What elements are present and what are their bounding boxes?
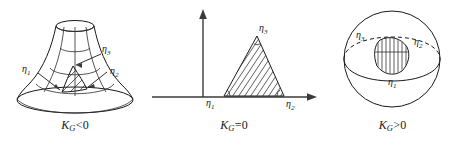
- label-eta2: η2: [414, 36, 423, 50]
- caption-positive-curvature: KG>0: [318, 118, 467, 133]
- label-eta2: η2: [286, 98, 295, 112]
- caption-zero-curvature: KG=0: [150, 118, 318, 133]
- figure-root: η1 η2 η3 KG<0: [0, 0, 467, 158]
- horizontal-axis-arrowhead: [307, 93, 317, 101]
- label-eta1: η1: [388, 76, 396, 90]
- trumpet-base-front-arc: [17, 99, 133, 113]
- label-eta1: η1: [206, 97, 214, 111]
- label-eta2: η2: [110, 65, 119, 79]
- vertical-axis-arrowhead: [199, 9, 207, 19]
- sphere-surface-illustration: η3 η2 η1: [318, 0, 467, 118]
- panel-zero-curvature: η1 η2 η3 KG=0: [150, 0, 318, 158]
- panel-negative-curvature: η1 η2 η3 KG<0: [0, 0, 150, 158]
- spherical-triangle-outline: [375, 38, 409, 75]
- caption-symbol-k: K: [379, 118, 387, 132]
- hyperboloid-surface-illustration: η1 η2 η3: [0, 0, 150, 118]
- label-eta3: η3: [259, 22, 268, 36]
- angle-arc-eta3: [254, 44, 260, 45]
- caption-relation: =0: [235, 118, 248, 132]
- leader-eta3: [76, 54, 101, 65]
- panel-positive-curvature: η3 η2 η1 KG>0: [318, 0, 467, 158]
- caption-negative-curvature: KG<0: [0, 118, 150, 133]
- label-eta3: η3: [356, 29, 365, 43]
- plane-surface-illustration: η1 η2 η3: [150, 0, 318, 118]
- caption-relation: >0: [393, 118, 406, 132]
- equator-back-arc: [344, 37, 440, 59]
- label-eta1: η1: [22, 63, 30, 77]
- angle-arc-eta2: [277, 90, 280, 96]
- label-eta3: η3: [102, 43, 111, 57]
- caption-relation: <0: [76, 118, 89, 132]
- flat-triangle-hatching: [210, 28, 318, 112]
- sphere-outline: [344, 11, 440, 107]
